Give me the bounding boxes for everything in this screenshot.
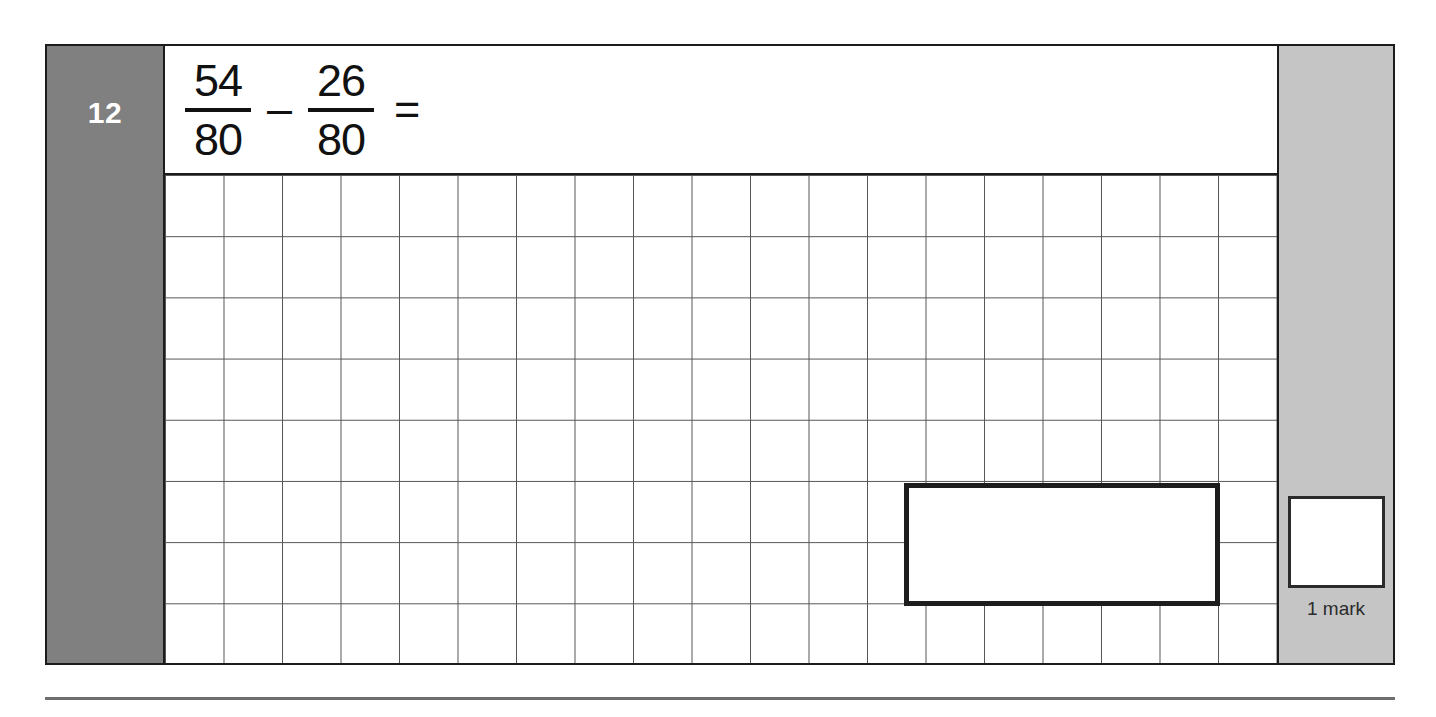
second-fraction-bar: [308, 108, 374, 112]
minus-operator: –: [267, 83, 292, 137]
mark-column: 1 mark: [1277, 46, 1393, 663]
question-sheet: 12 54 80 – 26 80 =: [45, 44, 1395, 665]
mark-award-box[interactable]: [1288, 496, 1385, 588]
question-number: 12: [88, 96, 122, 130]
mark-label: 1 mark: [1279, 598, 1393, 620]
second-fraction: 26 80: [308, 58, 374, 162]
first-fraction: 54 80: [185, 58, 251, 162]
footer-rule: [45, 697, 1395, 700]
answer-box[interactable]: [904, 483, 1220, 606]
squared-working-grid[interactable]: [165, 175, 1277, 663]
first-fraction-denominator: 80: [190, 117, 246, 162]
fraction-expression: 54 80 – 26 80 =: [183, 58, 420, 162]
work-area: 54 80 – 26 80 =: [165, 46, 1277, 663]
second-fraction-denominator: 80: [313, 117, 369, 162]
question-number-column: 12: [47, 46, 165, 663]
first-fraction-numerator: 54: [190, 58, 246, 103]
equals-sign: =: [394, 83, 420, 137]
first-fraction-bar: [185, 108, 251, 112]
expression-strip: 54 80 – 26 80 =: [165, 46, 1277, 175]
second-fraction-numerator: 26: [313, 58, 369, 103]
